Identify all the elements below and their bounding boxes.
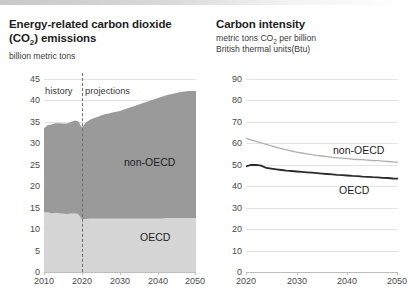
right-subtitle-line1-pre: metric tons CO bbox=[216, 33, 273, 43]
left-ylabel-20: 20 bbox=[20, 182, 40, 191]
left-ylabel-25: 25 bbox=[20, 161, 40, 170]
left-xtick-2030 bbox=[120, 272, 121, 275]
left-xtick-2040 bbox=[158, 272, 159, 275]
right-ylabel-30: 30 bbox=[222, 204, 242, 213]
left-xtick-2010 bbox=[44, 272, 45, 275]
right-ylabel-20: 20 bbox=[222, 225, 242, 234]
history-projection-divider bbox=[82, 73, 83, 272]
right-xlabel-2030: 2030 bbox=[277, 277, 317, 286]
right-ylabel-60: 60 bbox=[222, 139, 242, 148]
oecd-line bbox=[246, 165, 398, 179]
right-xtick-2040 bbox=[347, 272, 348, 275]
projections-label: projections bbox=[85, 86, 130, 96]
left-chart-subtitle: billion metric tons bbox=[9, 51, 75, 62]
right-xtick-2050 bbox=[397, 272, 398, 275]
right-xlabel-2020: 2020 bbox=[226, 277, 266, 286]
right-x-axis-line bbox=[246, 272, 398, 273]
left-series-label-non-oecd: non-OECD bbox=[124, 157, 175, 168]
right-chart-subtitle: metric tons CO2 per billion British ther… bbox=[216, 33, 401, 54]
left-ylabel-45: 45 bbox=[20, 75, 40, 84]
right-ylabel-70: 70 bbox=[222, 118, 242, 127]
left-xtick-2020 bbox=[82, 272, 83, 275]
right-xlabel-2050: 2050 bbox=[377, 277, 408, 286]
right-xtick-2020 bbox=[246, 272, 247, 275]
left-chart-panel: Energy-related carbon dioxide (CO2) emis… bbox=[0, 0, 204, 303]
left-chart-title-line1: Energy-related carbon dioxide bbox=[9, 18, 172, 30]
left-ylabel-30: 30 bbox=[20, 139, 40, 148]
left-plot-area bbox=[44, 79, 196, 272]
right-subtitle-line2: British thermal units(Btu) bbox=[216, 44, 310, 54]
right-xlabel-2040: 2040 bbox=[327, 277, 367, 286]
right-line-chart bbox=[246, 79, 398, 272]
right-subtitle-line1-post: per billion bbox=[277, 33, 316, 43]
right-series-label-non-oecd: non-OECD bbox=[333, 145, 384, 156]
left-ylabel-35: 35 bbox=[20, 118, 40, 127]
right-series-label-oecd: OECD bbox=[339, 185, 369, 196]
left-ylabel-5: 5 bbox=[20, 247, 40, 256]
right-ylabel-90: 90 bbox=[222, 75, 242, 84]
left-chart-title-line2-pre: (CO bbox=[9, 32, 30, 44]
right-xtick-2030 bbox=[297, 272, 298, 275]
left-ylabel-40: 40 bbox=[20, 96, 40, 105]
left-xlabel-2040: 2040 bbox=[138, 277, 178, 286]
right-ylabel-50: 50 bbox=[222, 161, 242, 170]
left-xlabel-2030: 2030 bbox=[100, 277, 140, 286]
left-stacked-area-chart bbox=[44, 79, 196, 272]
right-ylabel-10: 10 bbox=[222, 247, 242, 256]
left-chart-title-line2-post: ) emissions bbox=[34, 32, 96, 44]
left-xtick-2050 bbox=[195, 272, 196, 275]
oecd-area bbox=[44, 212, 196, 272]
right-chart-panel: Carbon intensity metric tons CO2 per bil… bbox=[204, 0, 408, 303]
left-chart-title: Energy-related carbon dioxide (CO2) emis… bbox=[9, 18, 199, 45]
left-ylabel-15: 15 bbox=[20, 204, 40, 213]
right-chart-title: Carbon intensity bbox=[216, 18, 305, 32]
left-xlabel-2010: 2010 bbox=[24, 277, 64, 286]
left-xlabel-2020: 2020 bbox=[62, 277, 102, 286]
right-ylabel-40: 40 bbox=[222, 182, 242, 191]
history-label: history bbox=[45, 86, 72, 96]
left-series-label-oecd: OECD bbox=[140, 232, 170, 243]
right-plot-area bbox=[246, 79, 398, 272]
left-ylabel-10: 10 bbox=[20, 225, 40, 234]
right-ylabel-80: 80 bbox=[222, 96, 242, 105]
